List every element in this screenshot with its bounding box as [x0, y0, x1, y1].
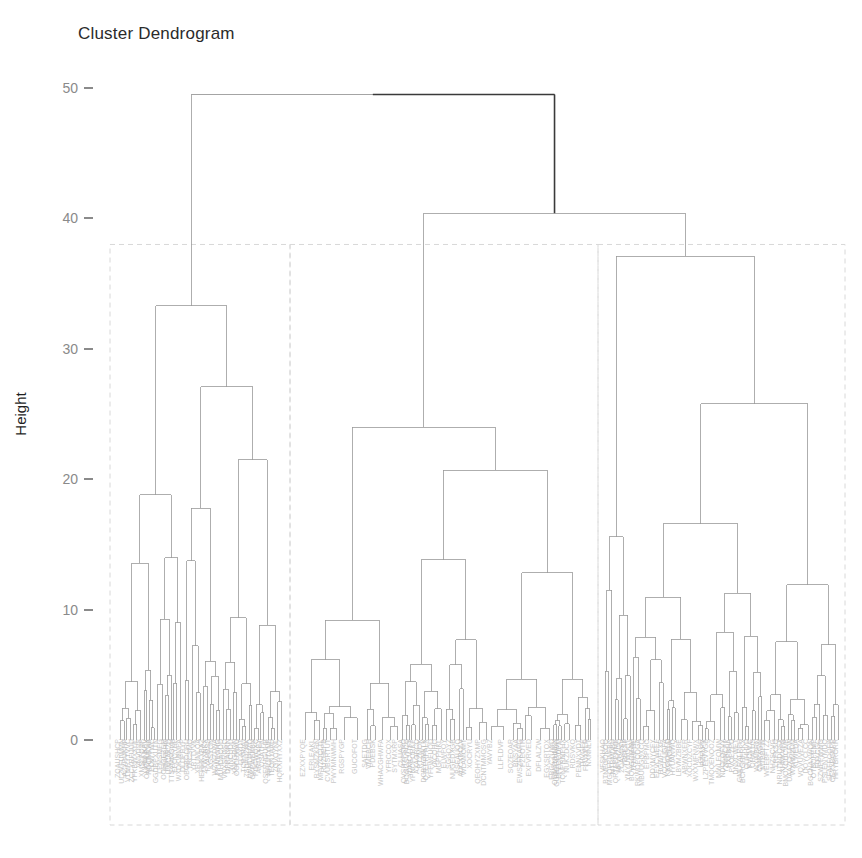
leaf-label: PWYMNWMH — [330, 739, 337, 783]
leaf-label: YAVYBZ — [486, 738, 493, 765]
leaf-label: RGSPYGP — [338, 739, 345, 774]
leaf-label: NXNNLT — [585, 738, 592, 766]
leaf-label: WHACGHWFA — [377, 739, 384, 786]
leaf-label: XOCRYU — [466, 739, 473, 769]
leaf-label: PDEBSK — [369, 739, 376, 768]
leaf-label: EXFVRVED — [525, 739, 532, 777]
dendrogram-figure: Cluster Dendrogram Height 01020304050 ZQ… — [0, 0, 862, 858]
leaf-label: DFLALZW — [535, 739, 542, 772]
leaf-label: HQRXHYXXZ — [276, 738, 284, 782]
dendrogram-canvas: ZQAUSHCPULZYFUWMNAZYRUKHFVTMRYTVVCZCCYRF… — [0, 0, 862, 858]
leaf-label: EZXXPYQE — [299, 739, 307, 777]
leaf-label: GUCOFOT — [351, 738, 358, 774]
leaf-label: HRYBRORR — [832, 739, 839, 779]
leaf-label: LLFLDVP — [497, 739, 504, 770]
dendrogram-svg: ZQAUSHCPULZYFUWMNAZYRUKHFVTMRYTVVCZCCYRF… — [0, 0, 862, 858]
